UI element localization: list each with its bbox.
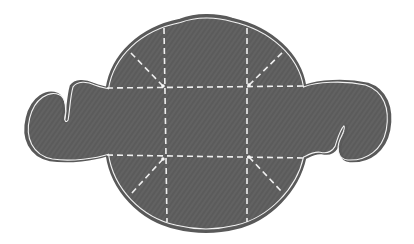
intersection-mark [161, 84, 165, 88]
pattern-outline [26, 15, 391, 231]
intersection-mark [247, 155, 251, 159]
pattern-piece-svg [0, 0, 414, 244]
pattern-diagram [0, 0, 414, 244]
pattern-silhouette [26, 15, 391, 231]
intersection-mark [247, 83, 251, 87]
intersection-mark [161, 157, 165, 161]
